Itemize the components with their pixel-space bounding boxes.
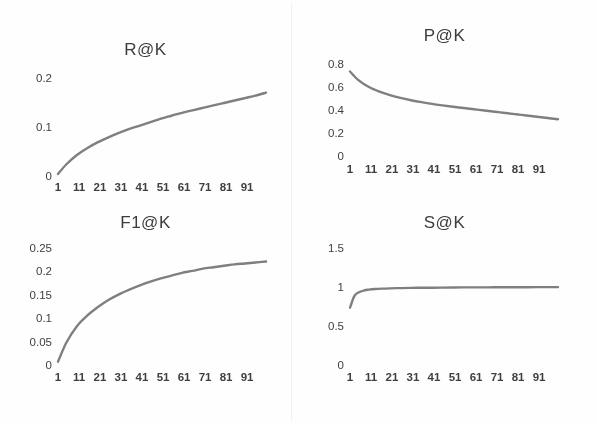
y-tick-label: 0.8 — [328, 58, 344, 70]
plot-area-s-at-k — [350, 248, 558, 365]
x-tick-label: 81 — [220, 181, 233, 193]
y-tick-label: 0.2 — [328, 127, 344, 139]
plot-area-p-at-k — [350, 64, 558, 156]
x-tick-label: 1 — [55, 371, 61, 383]
series-line-f1-at-k — [58, 262, 266, 362]
x-axis-ticks-r-at-k: 1112131415161718191 — [58, 181, 266, 197]
x-tick-label: 31 — [115, 371, 128, 383]
x-tick-label: 21 — [94, 371, 107, 383]
x-tick-label: 71 — [491, 371, 504, 383]
figure-canvas: R@K 00.10.2 1112131415161718191 P@K 00.2… — [0, 0, 597, 424]
y-axis-ticks-r-at-k: 00.10.2 — [12, 78, 52, 176]
panel-p-at-k: P@K 00.20.40.60.8 1112131415161718191 — [292, 0, 597, 205]
x-axis-ticks-s-at-k: 1112131415161718191 — [350, 371, 558, 387]
x-tick-label: 11 — [365, 371, 377, 383]
x-tick-label: 41 — [428, 163, 441, 175]
y-axis-ticks-s-at-k: 00.511.5 — [300, 248, 344, 365]
y-tick-label: 0.5 — [328, 320, 344, 332]
panel-f1-at-k: F1@K 00.050.10.150.20.25 111213141516171… — [0, 205, 291, 424]
x-tick-label: 91 — [533, 163, 546, 175]
panel-r-at-k: R@K 00.10.2 1112131415161718191 — [0, 18, 291, 205]
x-tick-label: 61 — [178, 371, 191, 383]
x-tick-label: 81 — [512, 163, 525, 175]
y-tick-label: 0 — [46, 170, 52, 182]
x-tick-label: 91 — [241, 181, 254, 193]
panel-title-s-at-k: S@K — [292, 213, 597, 233]
panel-s-at-k: S@K 00.511.5 1112131415161718191 — [292, 205, 597, 424]
y-axis-ticks-p-at-k: 00.20.40.60.8 — [302, 64, 344, 156]
x-tick-label: 1 — [55, 181, 61, 193]
x-tick-label: 31 — [115, 181, 128, 193]
x-tick-label: 71 — [491, 163, 504, 175]
x-tick-label: 51 — [449, 371, 462, 383]
x-tick-label: 51 — [449, 163, 462, 175]
x-tick-label: 41 — [136, 181, 149, 193]
series-line-s-at-k — [350, 287, 558, 308]
y-tick-label: 0 — [338, 359, 344, 371]
plot-area-f1-at-k — [58, 248, 266, 365]
plot-svg-s-at-k — [350, 248, 558, 365]
x-tick-label: 71 — [199, 371, 212, 383]
y-tick-label: 0 — [338, 150, 344, 162]
x-tick-label: 61 — [470, 163, 483, 175]
x-tick-label: 41 — [136, 371, 149, 383]
y-tick-label: 1 — [338, 281, 344, 293]
panel-title-p-at-k: P@K — [292, 26, 597, 46]
x-tick-label: 61 — [178, 181, 191, 193]
x-tick-label: 1 — [347, 371, 353, 383]
y-axis-ticks-f1-at-k: 00.050.10.150.20.25 — [6, 248, 52, 365]
y-tick-label: 0.1 — [36, 121, 52, 133]
x-tick-label: 81 — [512, 371, 525, 383]
series-line-r-at-k — [58, 93, 266, 174]
y-tick-label: 0.1 — [36, 312, 52, 324]
plot-svg-r-at-k — [58, 78, 266, 176]
x-tick-label: 71 — [199, 181, 212, 193]
plot-svg-f1-at-k — [58, 248, 266, 365]
y-tick-label: 0.25 — [30, 242, 52, 254]
y-tick-label: 0 — [46, 359, 52, 371]
x-tick-label: 51 — [157, 371, 170, 383]
y-tick-label: 0.2 — [36, 265, 52, 277]
x-axis-ticks-p-at-k: 1112131415161718191 — [350, 163, 558, 179]
x-tick-label: 21 — [94, 181, 107, 193]
x-tick-label: 21 — [386, 163, 399, 175]
x-tick-label: 61 — [470, 371, 483, 383]
plot-area-r-at-k — [58, 78, 266, 176]
x-tick-label: 11 — [73, 371, 85, 383]
x-tick-label: 91 — [241, 371, 254, 383]
y-tick-label: 0.4 — [328, 104, 344, 116]
y-tick-label: 0.15 — [30, 289, 52, 301]
x-tick-label: 31 — [407, 371, 420, 383]
y-tick-label: 1.5 — [328, 242, 344, 254]
y-tick-label: 0.05 — [30, 336, 52, 348]
x-tick-label: 41 — [428, 371, 441, 383]
x-tick-label: 11 — [365, 163, 377, 175]
y-tick-label: 0.2 — [36, 72, 52, 84]
panel-title-r-at-k: R@K — [0, 40, 291, 60]
x-tick-label: 91 — [533, 371, 546, 383]
x-tick-label: 1 — [347, 163, 353, 175]
x-axis-ticks-f1-at-k: 1112131415161718191 — [58, 371, 266, 387]
x-tick-label: 31 — [407, 163, 420, 175]
y-tick-label: 0.6 — [328, 81, 344, 93]
x-tick-label: 11 — [73, 181, 85, 193]
x-tick-label: 51 — [157, 181, 170, 193]
plot-svg-p-at-k — [350, 64, 558, 156]
x-tick-label: 81 — [220, 371, 233, 383]
x-tick-label: 21 — [386, 371, 399, 383]
panel-title-f1-at-k: F1@K — [0, 213, 291, 233]
series-line-p-at-k — [350, 71, 558, 119]
